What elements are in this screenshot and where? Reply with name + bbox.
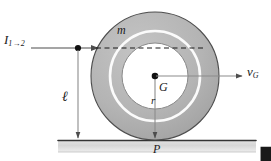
velocity-subscript: G xyxy=(253,71,259,80)
impulse-subscript: 1→2 xyxy=(8,39,25,48)
radius-label: r xyxy=(151,95,155,106)
height-label: ℓ xyxy=(62,90,68,104)
diagram-canvas xyxy=(0,0,271,161)
contact-point-label: P xyxy=(153,143,160,155)
velocity-vector-label: vG xyxy=(247,65,259,80)
mass-label: m xyxy=(117,24,126,36)
impulse-label: I1→2 xyxy=(4,33,25,48)
physics-diagram-rolling-wheel: I1→2 ℓ m G r P vG xyxy=(0,0,271,161)
center-of-mass-label: G xyxy=(159,81,168,93)
velocity-symbol: v xyxy=(247,64,253,79)
impulse-arrow xyxy=(31,45,98,51)
